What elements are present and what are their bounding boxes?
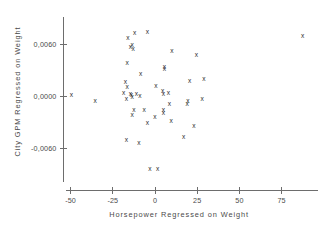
- scatter-plot-figure: 0,00600,0000-0,0060-50-250255075Horsepow…: [0, 0, 329, 225]
- x-axis-tick-label: 0: [153, 196, 157, 205]
- data-point: x: [153, 113, 157, 120]
- data-point: x: [301, 32, 305, 39]
- data-point: x: [170, 47, 174, 54]
- data-point: x: [146, 28, 150, 35]
- data-point: x: [167, 89, 171, 96]
- x-axis-tick-label: -50: [65, 196, 76, 205]
- data-point: x: [137, 139, 141, 146]
- data-point: x: [93, 97, 97, 104]
- data-point: x: [201, 95, 205, 102]
- x-axis-tick-label: 50: [235, 196, 243, 205]
- x-axis-title: Horsepower Regressed on Weight: [109, 210, 249, 219]
- data-point: x: [148, 165, 152, 172]
- data-point: x: [138, 92, 142, 99]
- data-point: x: [195, 51, 199, 58]
- data-point: x: [154, 82, 158, 89]
- data-point: x: [192, 122, 196, 129]
- data-point: x: [126, 59, 130, 66]
- data-point: x: [182, 133, 186, 140]
- plot-canvas: 0,00600,0000-0,0060-50-250255075Horsepow…: [0, 0, 329, 225]
- data-point: x: [156, 165, 160, 172]
- data-point: x: [126, 83, 130, 90]
- y-axis-tick-label: 0,0060: [34, 40, 57, 49]
- x-axis-tick-label: 75: [277, 196, 285, 205]
- data-point: x: [139, 70, 143, 77]
- y-axis-tick-label: 0,0000: [34, 92, 57, 101]
- data-point: x: [163, 65, 167, 72]
- data-point-group: xxxxxxxxxxxxxxxxxxxxxxxxxxxxxxxxxxxxxxxx…: [70, 28, 305, 173]
- data-point: x: [162, 90, 166, 97]
- x-axis-tick-label: -25: [107, 196, 118, 205]
- data-point: x: [169, 117, 173, 124]
- data-point: x: [125, 136, 129, 143]
- data-point: x: [142, 106, 146, 113]
- y-axis-tick-label: -0,0060: [31, 144, 56, 153]
- data-point: x: [168, 100, 172, 107]
- y-axis-title: City GPM Regressed on Weight: [13, 27, 22, 157]
- data-point: x: [146, 119, 150, 126]
- x-axis-tick-label: 25: [193, 196, 201, 205]
- data-point: x: [70, 91, 74, 98]
- data-point: x: [162, 109, 166, 116]
- data-point: x: [133, 29, 137, 36]
- data-point: x: [202, 75, 206, 82]
- data-point: x: [188, 77, 192, 84]
